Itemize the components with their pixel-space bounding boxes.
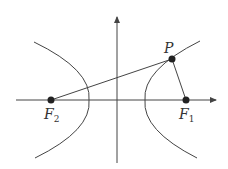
label-f2: F2 — [44, 107, 59, 124]
hyperbola-diagram: P F2 F1 — [0, 0, 228, 169]
label-f1: F1 — [179, 107, 194, 124]
segment-f2-p — [51, 59, 172, 100]
point-f1 — [183, 97, 190, 104]
diagram-canvas — [0, 0, 228, 169]
point-f2 — [48, 97, 55, 104]
point-p — [169, 56, 176, 63]
segment-p-f1 — [172, 59, 186, 100]
label-p: P — [164, 41, 173, 55]
